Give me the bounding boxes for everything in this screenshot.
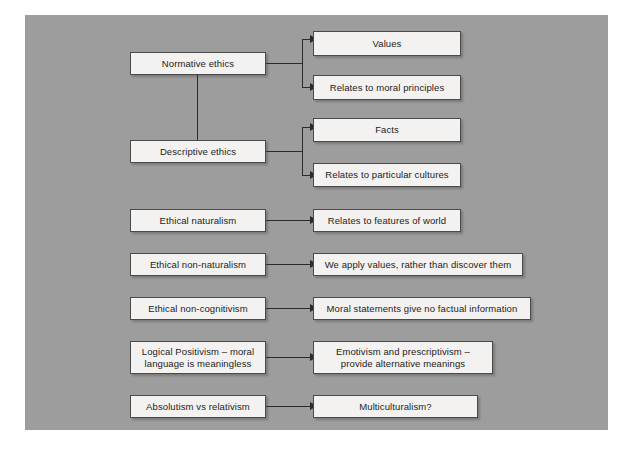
node-label: Multiculturalism? [318, 401, 473, 413]
node-emotivism[interactable]: Emotivism and prescriptivism – provide a… [313, 341, 493, 374]
node-label: Relates to features of world [318, 215, 456, 227]
node-values[interactable]: Values [313, 31, 461, 56]
node-label-line2: provide alternative meanings [341, 358, 465, 369]
node-relates-to-moral-principles[interactable]: Relates to moral principles [313, 75, 461, 100]
connector-normative-to-descriptive [197, 75, 198, 141]
node-we-apply-values[interactable]: We apply values, rather than discover th… [313, 253, 523, 276]
node-label: We apply values, rather than discover th… [318, 259, 518, 271]
connector-non-cognitivism [265, 308, 313, 309]
node-label: Moral statements give no factual informa… [318, 303, 526, 315]
node-normative-ethics[interactable]: Normative ethics [130, 52, 266, 75]
node-multiculturalism[interactable]: Multiculturalism? [313, 395, 478, 418]
connector-absolutism [265, 406, 313, 407]
connector-normative-trunk [302, 39, 303, 87]
connector-descriptive-stem [265, 151, 302, 152]
node-relates-to-particular-cultures[interactable]: Relates to particular cultures [313, 163, 461, 187]
connector-naturalism [265, 220, 313, 221]
connector-non-naturalism [265, 264, 313, 265]
node-relates-to-features-of-world[interactable]: Relates to features of world [313, 209, 461, 232]
connector-normative-stem [265, 63, 302, 64]
node-ethical-non-cognitivism[interactable]: Ethical non-cognitivism [130, 297, 266, 320]
connector-descriptive-trunk [302, 127, 303, 175]
node-label-line1: Logical Positivism – moral [142, 346, 254, 357]
node-label: Relates to moral principles [318, 82, 456, 94]
diagram-panel: Normative ethics Values Relates to moral… [25, 15, 608, 430]
node-ethical-non-naturalism[interactable]: Ethical non-naturalism [130, 253, 266, 276]
node-label-line2: language is meaningless [145, 358, 252, 369]
node-ethical-naturalism[interactable]: Ethical naturalism [130, 209, 266, 232]
diagram-canvas: Normative ethics Values Relates to moral… [0, 0, 630, 450]
node-label: Values [318, 38, 456, 50]
node-label: Descriptive ethics [135, 146, 261, 158]
node-label: Normative ethics [135, 58, 261, 70]
node-label: Absolutism vs relativism [135, 401, 261, 413]
node-logical-positivism[interactable]: Logical Positivism – moral language is m… [130, 341, 266, 374]
node-label: Relates to particular cultures [318, 169, 456, 181]
node-label: Facts [318, 124, 456, 136]
node-absolutism-vs-relativism[interactable]: Absolutism vs relativism [130, 395, 266, 418]
node-label: Ethical non-naturalism [135, 259, 261, 271]
node-moral-statements[interactable]: Moral statements give no factual informa… [313, 297, 531, 320]
node-label: Ethical non-cognitivism [135, 303, 261, 315]
node-label-line1: Emotivism and prescriptivism – [336, 346, 470, 357]
node-label: Ethical naturalism [135, 215, 261, 227]
node-facts[interactable]: Facts [313, 118, 461, 142]
connector-logical-positivism [265, 357, 313, 358]
node-descriptive-ethics[interactable]: Descriptive ethics [130, 140, 266, 163]
